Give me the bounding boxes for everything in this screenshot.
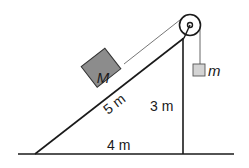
label-M: M	[97, 69, 110, 86]
string-incline	[124, 16, 185, 64]
label-base: 4 m	[107, 137, 130, 153]
label-m: m	[208, 62, 221, 79]
block-m	[193, 64, 205, 76]
label-height: 3 m	[150, 98, 173, 114]
incline-pulley-diagram: M m 5 m 3 m 4 m	[0, 0, 249, 168]
label-hypotenuse: 5 m	[100, 90, 128, 117]
